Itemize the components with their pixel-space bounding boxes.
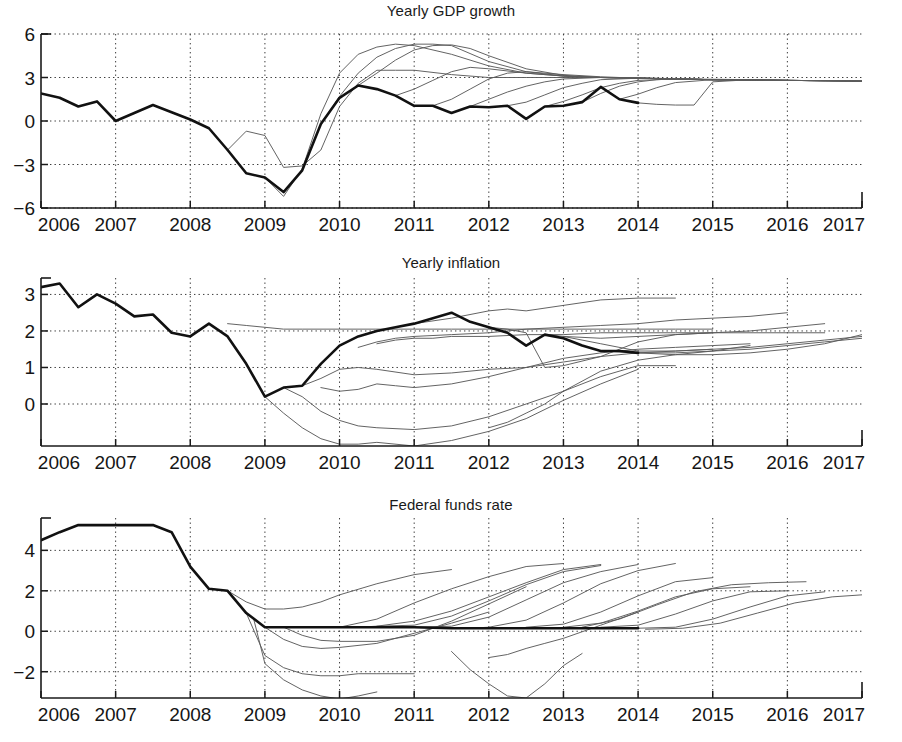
x-axis-tick-label: 2012 (468, 453, 510, 472)
panel-title-gdp: Yearly GDP growth (0, 2, 902, 19)
forecast-path-line (284, 587, 527, 642)
x-axis-tick-label: 2014 (617, 215, 659, 234)
forecast-path-line (489, 612, 638, 658)
forecast-path-line (265, 612, 489, 648)
x-axis-tick-label: 2007 (94, 453, 136, 472)
forecast-path-line (507, 78, 862, 106)
forecast-path-line (646, 595, 862, 629)
forecast-path-line (321, 44, 787, 124)
x-axis-tick-label: 2009 (244, 705, 286, 724)
x-axis-tick-label: 2007 (94, 215, 136, 234)
y-axis-tick-label: −2 (0, 662, 35, 681)
y-axis-tick-label: 3 (0, 68, 35, 87)
x-axis-tick-label: 2013 (542, 453, 584, 472)
x-axis-tick-label: 2008 (169, 705, 211, 724)
x-axis-tick-label: 2015 (692, 453, 734, 472)
x-axis-tick-label: 2013 (542, 705, 584, 724)
forecast-path-line (284, 366, 676, 430)
forecast-path-line (321, 564, 564, 628)
x-axis-tick-label: 2007 (94, 705, 136, 724)
plot-area-gdp (41, 34, 862, 208)
y-axis-tick-label: 1 (0, 358, 35, 377)
x-axis-tick-label: 2012 (468, 215, 510, 234)
forecast-path-line (228, 70, 713, 167)
x-axis-tick-label: 2009 (244, 453, 286, 472)
forecast-path-line (228, 324, 713, 329)
forecast-path-line (414, 298, 675, 324)
y-axis-tick-label: 4 (0, 541, 35, 560)
forecast-path-line (470, 78, 862, 107)
y-axis-tick-label: 6 (0, 25, 35, 44)
x-axis-tick-label: 2010 (318, 453, 360, 472)
forecast-path-line (254, 619, 377, 699)
y-axis-tick-label: −3 (0, 155, 35, 174)
forecast-path-line (228, 570, 452, 609)
forecast-path-line (358, 565, 601, 628)
plot-svg-gdp (41, 34, 862, 208)
forecast-path-line (601, 591, 788, 627)
x-axis-tick-label: 2014 (617, 453, 659, 472)
x-axis-tick-label: 2016 (766, 215, 808, 234)
forecast-path-line (246, 613, 414, 676)
panel-yearly-inflation: Yearly inflation 32102006200720082009201… (0, 248, 902, 490)
forecast-comparison-figure: Yearly GDP growth 630−3−6200620072008200… (0, 0, 902, 742)
forecast-path-line (414, 565, 638, 628)
forecast-path-line (302, 349, 712, 386)
x-axis-tick-label: 2017 (823, 705, 865, 724)
y-axis-tick-label: 2 (0, 321, 35, 340)
x-axis-tick-label: 2015 (692, 215, 734, 234)
x-axis-tick-label: 2006 (38, 453, 80, 472)
x-axis-tick-label: 2006 (38, 215, 80, 234)
y-axis-tick-label: 2 (0, 581, 35, 600)
panel-yearly-gdp-growth: Yearly GDP growth 630−3−6200620072008200… (0, 0, 902, 248)
x-axis-tick-label: 2015 (692, 705, 734, 724)
y-axis-tick-label: 0 (0, 622, 35, 641)
y-axis-tick-label: 0 (0, 112, 35, 131)
forecast-path-line (563, 587, 750, 627)
plot-svg-inflation (41, 278, 862, 446)
forecast-path-line (489, 346, 750, 428)
x-axis-tick-label: 2006 (38, 705, 80, 724)
x-axis-tick-label: 2013 (542, 215, 584, 234)
x-axis-tick-label: 2012 (468, 705, 510, 724)
x-axis-tick-label: 2011 (394, 453, 435, 472)
forecast-path-line (452, 651, 583, 698)
forecast-path-line (619, 80, 862, 100)
x-axis-tick-label: 2009 (244, 215, 286, 234)
x-axis-tick-label: 2010 (318, 215, 360, 234)
forecast-path-line (638, 592, 825, 628)
plot-area-ffr (41, 518, 862, 698)
x-axis-tick-label: 2011 (394, 215, 435, 234)
panel-federal-funds-rate: Federal funds rate 420−22006200720082009… (0, 490, 902, 742)
plot-svg-ffr (41, 518, 862, 698)
y-axis-tick-label: 0 (0, 395, 35, 414)
x-axis-tick-label: 2016 (766, 705, 808, 724)
forecast-path-line (526, 578, 713, 628)
x-axis-tick-label: 2010 (318, 705, 360, 724)
historical-data-line (41, 283, 638, 396)
x-axis-tick-label: 2016 (766, 453, 808, 472)
x-axis-tick-label: 2011 (394, 705, 435, 724)
x-axis-tick-label: 2008 (169, 215, 211, 234)
x-axis-tick-label: 2017 (823, 453, 865, 472)
forecast-path-line (563, 336, 862, 351)
plot-area-inflation (41, 278, 862, 446)
x-axis-tick-label: 2008 (169, 453, 211, 472)
forecast-path-line (433, 72, 862, 106)
forecast-path-line (582, 582, 806, 628)
y-axis-tick-label: −6 (0, 199, 35, 218)
x-axis-tick-label: 2017 (823, 215, 865, 234)
panel-title-ffr: Federal funds rate (0, 496, 902, 513)
panel-title-inflation: Yearly inflation (0, 254, 902, 271)
x-axis-tick-label: 2014 (617, 705, 659, 724)
y-axis-tick-label: 3 (0, 285, 35, 304)
